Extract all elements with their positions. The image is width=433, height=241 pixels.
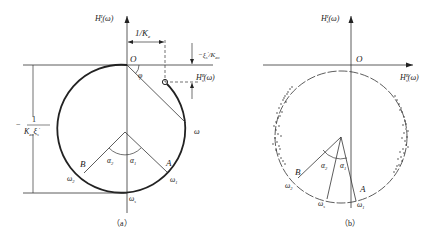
point-a-label-b: A	[359, 184, 366, 194]
omega1-label-b: ω1	[357, 200, 365, 210]
omegas-label-b: ωs	[318, 199, 325, 209]
alpha1-label-a: α1	[130, 156, 136, 166]
dim-left-denominator: Keoξs′	[23, 127, 41, 137]
dim-left-numerator: 1	[32, 115, 36, 124]
dim-right-label: −ξs′/Keo	[198, 51, 220, 60]
phi-label: φ	[138, 71, 143, 80]
omega2-label-b: ω2	[285, 181, 293, 191]
alpha2-label-b: α2	[321, 161, 328, 171]
line-to-omegas-b	[327, 137, 341, 199]
dim-left-minus: −	[16, 120, 21, 129]
omega2-label-a: ω2	[67, 174, 75, 184]
dim-top-label: 1/Ke	[135, 28, 151, 39]
scatter-points-left	[272, 86, 292, 164]
omega-label-a: ω	[194, 127, 200, 136]
y-axis-label-b: HIs(ω)	[320, 14, 340, 24]
figure-a: HIs(ω) HRs(ω) O φ 1/Ke −ξs′/Keo − 1 Keoξ…	[16, 14, 220, 228]
scatter-points-right	[393, 95, 408, 172]
alpha-arc-b	[323, 150, 347, 159]
origin-label-b: O	[356, 54, 363, 64]
x-axis-label-a: HRs(ω)	[195, 73, 215, 83]
figure-b: HIs(ω) HRs(ω) O B A α2 α1 ω2 ωs ω1 （b）	[263, 14, 419, 228]
point-b-label-b: B	[295, 167, 301, 177]
alpha1-label-b: α1	[340, 161, 346, 171]
point-a-label-a: A	[165, 158, 172, 168]
line-to-b	[84, 132, 125, 173]
figure-canvas: HIs(ω) HRs(ω) O φ 1/Ke −ξs′/Keo − 1 Keoξ…	[0, 0, 433, 241]
omega1-label-a: ω1	[170, 175, 178, 185]
caption-b: （b）	[340, 219, 360, 228]
caption-a: （a）	[112, 219, 132, 228]
alpha-arc-a	[109, 148, 141, 155]
point-b-label-a: B	[80, 159, 86, 169]
origin-label-a: O	[130, 54, 137, 64]
y-axis-label-a: HIs(ω)	[94, 14, 114, 24]
line-to-a	[125, 132, 167, 172]
alpha2-label-a: α2	[107, 156, 114, 166]
omegas-label-a: ωs	[129, 194, 136, 204]
line-to-b-b	[298, 137, 341, 178]
x-axis-label-b: HRs(ω)	[399, 73, 419, 83]
